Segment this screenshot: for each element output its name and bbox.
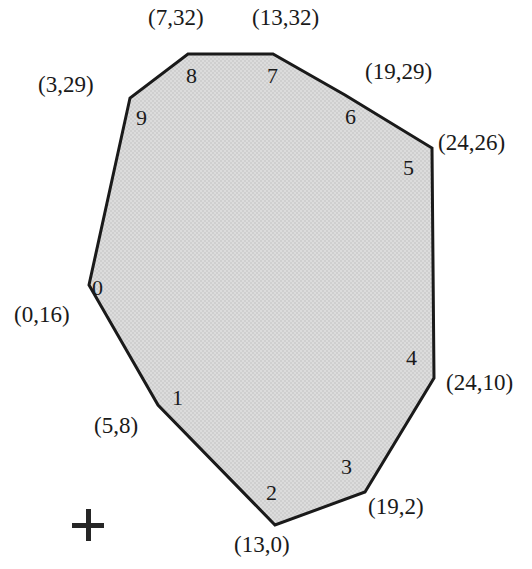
coord-label-3-29: (3,29) [38, 73, 94, 96]
coord-label-19-29: (19,29) [365, 60, 432, 83]
vertex-index-9: 9 [136, 107, 147, 129]
vertex-index-0: 0 [92, 277, 103, 299]
vertex-index-8: 8 [186, 65, 197, 87]
vertex-index-4: 4 [406, 347, 417, 369]
coord-label-24-10: (24,10) [446, 371, 513, 394]
vertex-index-3: 3 [341, 456, 352, 478]
coord-label-7-32: (7,32) [148, 6, 204, 29]
vertex-index-6: 6 [345, 106, 356, 128]
coord-label-19-2: (19,2) [368, 495, 424, 518]
plus-mark-vertical-bar [86, 509, 91, 541]
coord-label-24-26: (24,26) [438, 131, 505, 154]
coord-label-13-32: (13,32) [252, 6, 319, 29]
coord-label-13-0: (13,0) [234, 533, 290, 556]
vertex-index-2: 2 [266, 482, 277, 504]
figure-canvas: (7,32) (13,32) (3,29) (19,29) (24,26) (0… [0, 0, 532, 569]
coord-label-0-16: (0,16) [14, 303, 70, 326]
vertex-index-1: 1 [172, 387, 183, 409]
plus-mark-icon [72, 509, 104, 541]
coord-label-5-8: (5,8) [94, 414, 138, 437]
vertex-index-5: 5 [403, 157, 414, 179]
vertex-index-7: 7 [267, 65, 278, 87]
